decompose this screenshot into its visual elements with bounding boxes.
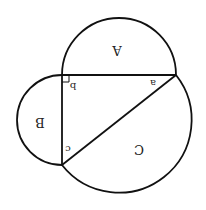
label-region-c: C — [134, 142, 144, 157]
label-angle-b: b — [70, 81, 76, 92]
semicircle-c — [62, 75, 192, 193]
label-angle-a: a — [150, 78, 156, 89]
label-region-a: A — [112, 43, 123, 58]
label-angle-c: c — [65, 144, 71, 155]
pythagorean-semicircles-diagram: A B C a b c — [0, 0, 206, 210]
label-region-b: B — [35, 115, 45, 130]
triangle-hypotenuse — [62, 75, 176, 165]
right-angle-marker — [62, 75, 69, 82]
